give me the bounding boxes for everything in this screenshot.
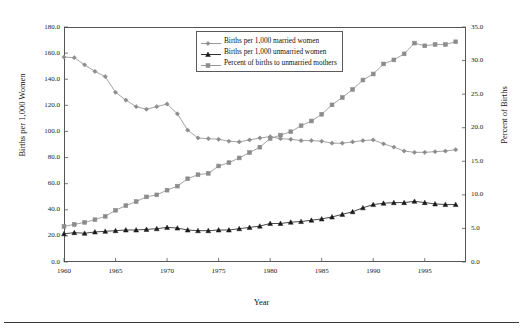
x-axis-tick: 1960 xyxy=(49,268,79,275)
chart-page: 0.020.040.060.080.0100.0120.0140.0160.01… xyxy=(0,0,523,334)
y-axis-left-tick: 20.0 xyxy=(22,232,60,239)
x-axis-tick: 1985 xyxy=(307,268,337,275)
square-marker-icon xyxy=(200,57,222,68)
x-axis-tick: 1970 xyxy=(152,268,182,275)
y-axis-right-tick: 0.0 xyxy=(471,259,501,266)
y-axis-left-tick: 180.0 xyxy=(22,24,60,31)
y-axis-right-tick: 10.0 xyxy=(471,191,501,198)
footer-divider xyxy=(4,322,519,323)
series-triangle xyxy=(62,199,458,236)
y-axis-right-tick: 5.0 xyxy=(471,225,501,232)
triangle-marker-icon xyxy=(200,46,222,57)
y-axis-left-tick: 120.0 xyxy=(22,102,60,109)
y-axis-left-title: Births per 1,000 Women xyxy=(17,45,27,185)
legend-item: Births per 1,000 unmarried women xyxy=(200,46,337,57)
y-axis-left-tick: 100.0 xyxy=(22,128,60,135)
y-axis-right-tick: 25.0 xyxy=(471,91,501,98)
x-axis-tick: 1990 xyxy=(358,268,388,275)
legend-item: Percent of births to unmarried mothers xyxy=(200,57,337,68)
x-axis-tick: 1995 xyxy=(410,268,440,275)
legend-label: Percent of births to unmarried mothers xyxy=(222,58,337,67)
y-axis-left-tick: 0.0 xyxy=(22,259,60,266)
legend-label: Births per 1,000 married women xyxy=(222,36,319,45)
x-axis-tick: 1975 xyxy=(204,268,234,275)
x-axis-title: Year xyxy=(0,297,523,307)
legend-item: Births per 1,000 married women xyxy=(200,35,337,46)
y-axis-right-tick: 20.0 xyxy=(471,124,501,131)
y-axis-right-tick: 35.0 xyxy=(471,24,501,31)
y-axis-right-tick: 15.0 xyxy=(471,158,501,165)
diamond-marker-icon xyxy=(200,35,222,46)
x-axis-tick: 1980 xyxy=(255,268,285,275)
y-axis-right-tick: 30.0 xyxy=(471,57,501,64)
chart-container: 0.020.040.060.080.0100.0120.0140.0160.01… xyxy=(0,0,523,300)
y-axis-left-tick: 160.0 xyxy=(22,50,60,57)
y-axis-left-tick: 40.0 xyxy=(22,206,60,213)
y-axis-left-tick: 80.0 xyxy=(22,154,60,161)
y-axis-left-tick: 140.0 xyxy=(22,76,60,83)
y-axis-left-tick: 60.0 xyxy=(22,180,60,187)
legend-label: Births per 1,000 unmarried women xyxy=(222,47,326,56)
x-axis-tick: 1965 xyxy=(101,268,131,275)
y-axis-right-title: Percent of Births xyxy=(499,45,509,185)
chart-legend: Births per 1,000 married womenBirths per… xyxy=(196,31,343,72)
